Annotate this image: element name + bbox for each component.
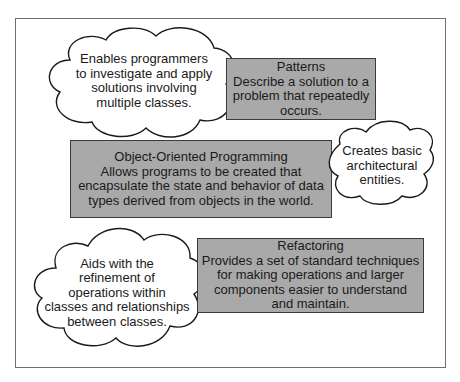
cloud-patterns-note: Enables programmers to investigate and a… — [40, 22, 240, 140]
box-text-line: problem that repeatedly — [233, 89, 370, 104]
box-object-oriented-programming: Object-Oriented Programming Allows progr… — [70, 140, 332, 218]
box-refactoring: Refactoring Provides a set of standard t… — [197, 238, 424, 313]
cloud-text-line: between classes. — [67, 315, 167, 330]
box-text-line: components easier to understand — [214, 283, 407, 298]
cloud-refactoring-note: Aids with the refinement of operations w… — [28, 222, 206, 352]
cloud-text-line: Enables programmers — [80, 52, 208, 67]
cloud-text-line: refinement of — [79, 271, 155, 286]
cloud-text-line: Creates basic — [342, 144, 421, 159]
box-text-line: occurs. — [280, 104, 322, 119]
box-patterns: Patterns Describe a solution to a proble… — [226, 58, 376, 120]
cloud-text-line: entities. — [360, 173, 405, 188]
box-title: Patterns — [277, 60, 325, 75]
box-text-line: Allows programs to be created that — [101, 165, 302, 180]
box-text-line: for making operations and larger — [217, 268, 404, 283]
cloud-text-line: to investigate and apply — [76, 67, 213, 82]
cloud-text-line: solutions involving — [91, 81, 197, 96]
box-text-line: and maintain. — [271, 297, 349, 312]
cloud-text-line: classes and relationships — [44, 300, 189, 315]
cloud-text-line: operations within — [68, 286, 166, 301]
box-text-line: encapsulate the state and behavior of da… — [78, 179, 324, 194]
cloud-text-line: multiple classes. — [96, 96, 191, 111]
box-text-line: Provides a set of standard techniques — [202, 254, 420, 269]
box-title: Refactoring — [277, 239, 343, 254]
box-title: Object-Oriented Programming — [114, 150, 287, 165]
cloud-oop-note: Creates basic architectural entities. — [326, 116, 438, 208]
cloud-text-line: architectural — [347, 159, 418, 174]
box-text-line: Describe a solution to a — [233, 75, 369, 90]
cloud-text-line: Aids with the — [80, 257, 154, 272]
box-text-line: types derived from objects in the world. — [88, 194, 313, 209]
